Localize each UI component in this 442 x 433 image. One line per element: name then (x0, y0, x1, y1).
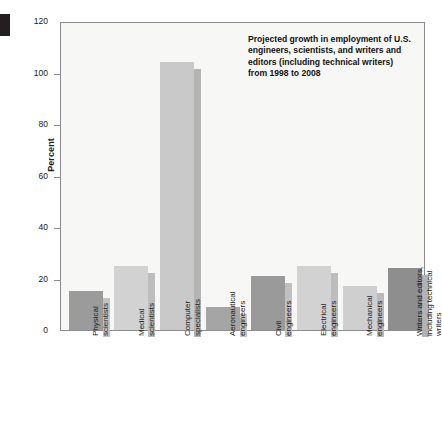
x-axis-category-label-line: Computer (183, 299, 193, 336)
x-axis-category-label: Writers and editors,including technicalw… (415, 267, 442, 336)
x-axis-category-label-line: engineers (329, 301, 339, 336)
y-axis-tick-label: 100 (8, 68, 48, 78)
y-axis-tick-label: 0 (8, 325, 48, 335)
bar-chart-figure: Percent 020406080100120 Physicalscientis… (0, 0, 442, 433)
x-axis-category-label-line: engineers (283, 301, 293, 336)
x-axis-category-label: Medicalscientists (137, 303, 156, 336)
x-axis-category-label-line: engineers (375, 296, 385, 336)
x-axis-category-label-line: scientists (146, 303, 156, 336)
x-axis-category-label-line: specialists (192, 299, 202, 336)
x-axis-category-label-line: Aeronautical (228, 292, 238, 336)
x-axis-category-label-line: writers (434, 267, 442, 336)
x-axis-category-label-line: Medical (137, 303, 147, 336)
x-axis-category-label: Physicalscientists (91, 303, 110, 336)
y-axis-tick-label: 20 (8, 274, 48, 284)
y-axis-tick-label: 80 (8, 119, 48, 129)
x-axis-category-label-line: scientists (101, 303, 111, 336)
x-axis-category-label-line: Electrical (319, 301, 329, 336)
x-axis-category-label-line: Mechanical (365, 296, 375, 336)
x-axis-category-label: Aeronauticalengineers (228, 292, 247, 336)
chart-annotation: Projected growth in employment of U.S. e… (248, 34, 414, 80)
x-axis-category-label-line: Civil (274, 301, 284, 336)
bar (160, 62, 194, 330)
x-axis-category-label-line: engineers (238, 292, 248, 336)
x-axis-category-label-line: Physical (91, 303, 101, 336)
y-axis-tick-label: 120 (8, 16, 48, 26)
y-axis-tick-label: 60 (8, 171, 48, 181)
x-axis-category-label-line: including technical (425, 267, 435, 336)
x-axis-category-label: Computerspecialists (183, 299, 202, 336)
y-axis-tick-label: 40 (8, 222, 48, 232)
x-axis-category-label: Mechanicalengineers (365, 296, 384, 336)
x-axis-category-label: Electricalengineers (319, 301, 338, 336)
bar-front-face (160, 62, 194, 330)
x-axis-category-label: Civilengineers (274, 301, 293, 336)
bar-side-face (194, 69, 201, 337)
x-axis-category-label-line: Writers and editors, (415, 267, 425, 336)
